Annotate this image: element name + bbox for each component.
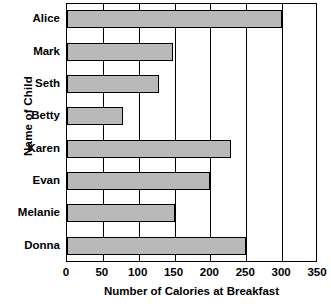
y-tick-label-seth: Seth	[35, 76, 60, 90]
plot-area	[66, 3, 317, 262]
bar-melanie	[67, 204, 175, 222]
x-tick-label-0: 0	[46, 266, 86, 278]
x-tick-label-300: 300	[261, 266, 301, 278]
y-tick-label-evan: Evan	[33, 173, 61, 187]
x-tick-label-group: 050100150200250300350	[66, 266, 317, 282]
x-tick-label-150: 150	[154, 266, 194, 278]
gridline	[246, 4, 247, 261]
bar-seth	[67, 75, 159, 93]
bar-evan	[67, 172, 210, 190]
y-tick-label-donna: Donna	[24, 238, 60, 252]
bar-karen	[67, 140, 231, 158]
bar-betty	[67, 107, 123, 125]
bar-chart: Name of Child AliceMarkSethBettyKarenEva…	[0, 0, 331, 304]
x-tick-label-250: 250	[225, 266, 265, 278]
y-tick-label-group: AliceMarkSethBettyKarenEvanMelanieDonna	[0, 3, 63, 262]
bar-donna	[67, 237, 246, 255]
y-tick-label-karen: Karen	[27, 141, 60, 155]
y-tick-label-betty: Betty	[31, 108, 60, 122]
x-tick-label-100: 100	[118, 266, 158, 278]
y-tick-label-mark: Mark	[33, 44, 60, 58]
gridline	[175, 4, 176, 261]
y-tick-label-alice: Alice	[33, 11, 61, 25]
bar-mark	[67, 43, 173, 61]
gridline	[282, 4, 283, 261]
y-tick-label-melanie: Melanie	[18, 205, 60, 219]
gridline	[210, 4, 211, 261]
x-tick-label-50: 50	[82, 266, 122, 278]
x-tick-label-350: 350	[297, 266, 331, 278]
x-axis-title: Number of Calories at Breakfast	[66, 285, 317, 297]
bar-alice	[67, 10, 282, 28]
x-tick-label-200: 200	[189, 266, 229, 278]
